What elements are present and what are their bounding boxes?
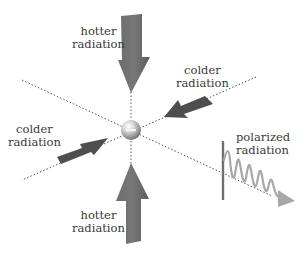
label-colder-right-line2: radiation <box>176 77 229 90</box>
label-hotter-bottom: hotter radiation <box>72 209 125 235</box>
colder-radiation-arrow-right <box>164 96 213 118</box>
label-polarized: polarized radiation <box>236 131 290 157</box>
label-hotter-top-line2: radiation <box>72 38 125 51</box>
label-hotter-bottom-line2: radiation <box>72 222 125 235</box>
label-polarized-line2: radiation <box>236 144 290 157</box>
label-colder-right: colder radiation <box>176 64 229 90</box>
colder-radiation-arrow-left <box>57 138 108 164</box>
electron-sphere <box>121 120 141 140</box>
wave-arrowhead <box>278 190 295 207</box>
label-colder-left: colder radiation <box>8 123 61 149</box>
label-colder-left-line2: radiation <box>8 136 61 149</box>
minus-sign-icon <box>126 129 136 131</box>
label-hotter-top: hotter radiation <box>72 25 125 51</box>
